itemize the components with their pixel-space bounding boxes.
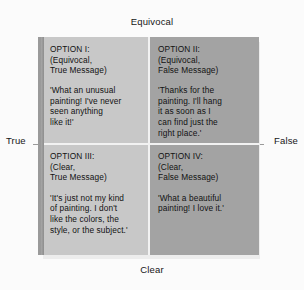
quadrant-quote: 'It's just not my kind of painting. I do… — [50, 193, 143, 235]
matrix-grid: OPTION I: (Equivocal, True Message) 'Wha… — [38, 37, 256, 255]
diagram-canvas: Equivocal True False Clear OPTION I: (Eq… — [0, 0, 304, 290]
axis-label-left: True — [6, 135, 26, 146]
quadrant-title: OPTION III: (Clear, True Message) — [50, 151, 143, 183]
quadrant-title: OPTION II: (Equivocal, False Message) — [158, 44, 253, 76]
quadrant-option-2[interactable]: OPTION II: (Equivocal, False Message) 'T… — [149, 37, 259, 144]
axis-label-top: Equivocal — [0, 16, 304, 27]
quadrant-matrix: OPTION I: (Equivocal, True Message) 'Wha… — [38, 37, 260, 259]
axis-label-right: False — [274, 135, 298, 146]
quadrant-title: OPTION I: (Equivocal, True Message) — [50, 44, 143, 76]
matrix-left-bevel — [41, 37, 44, 255]
quadrant-quote: 'Thanks for the painting. I'll hang it a… — [158, 85, 253, 138]
axis-label-bottom: Clear — [0, 264, 304, 275]
quadrant-option-4[interactable]: OPTION IV: (Clear, False Message) 'What … — [149, 144, 259, 255]
quadrant-option-3[interactable]: OPTION III: (Clear, True Message) 'It's … — [41, 144, 149, 255]
quadrant-title: OPTION IV: (Clear, False Message) — [158, 151, 253, 183]
quadrant-quote: 'What a beautiful painting! I love it.' — [158, 193, 253, 214]
quadrant-quote: 'What an unusual painting! I've never se… — [50, 85, 143, 127]
quadrant-option-1[interactable]: OPTION I: (Equivocal, True Message) 'Wha… — [41, 37, 149, 144]
